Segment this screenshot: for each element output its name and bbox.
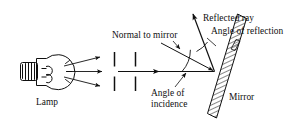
label-angle-of-reflection: Angle of reflection [211,26,283,37]
label-lamp: Lamp [36,97,58,108]
label-normal-to-mirror: Normal to mirror [112,30,177,41]
lamp-bulb-icon [21,55,75,90]
normal-label-leader [173,41,180,49]
lamp-emitted-rays [64,57,102,86]
label-mirror: Mirror [229,92,254,103]
label-angle-of-incidence: Angle of incidence [151,88,187,109]
angle-of-incidence-leader [175,73,186,87]
angle-of-incidence-arc [182,50,190,72]
reflection-ray-diagram: Normal to mirror Reflected ray Angle of … [0,0,300,132]
label-reflected-ray: Reflected ray [203,13,254,24]
angle-of-reflection-leader [207,38,216,46]
diagram-canvas [0,0,300,132]
